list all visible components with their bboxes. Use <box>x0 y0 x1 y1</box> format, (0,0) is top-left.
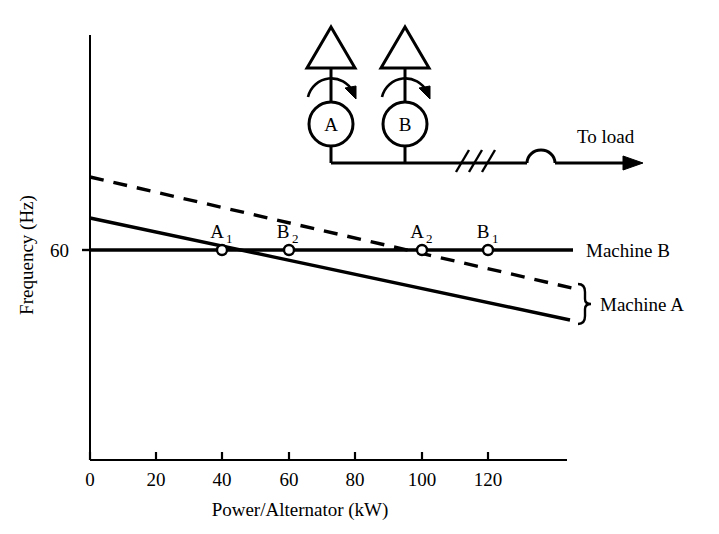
rotation-arrowhead-a <box>345 86 356 99</box>
x-ticks <box>90 452 488 460</box>
x-tick-label-100: 100 <box>408 469 437 490</box>
point-label-a2: A 2 <box>410 221 432 246</box>
marker-a2 <box>417 245 427 255</box>
x-tick-label-0: 0 <box>85 469 95 490</box>
x-tick-label-40: 40 <box>213 469 232 490</box>
schematic-diagram: A B <box>307 27 643 172</box>
point-label-a2-base: A <box>410 221 424 242</box>
x-tick-label-80: 80 <box>346 469 365 490</box>
point-label-a1-sub: 1 <box>226 231 233 246</box>
wire-hop-icon <box>527 150 555 163</box>
marker-b1 <box>483 245 493 255</box>
alternator-b-label: B <box>399 114 412 135</box>
point-label-b1-base: B <box>477 221 490 242</box>
triangle-icon-b <box>381 27 429 68</box>
figure-root: A B <box>0 0 719 534</box>
marker-b2 <box>284 245 294 255</box>
series-legend: Machine B Machine A <box>578 240 684 324</box>
legend-machine-a: Machine A <box>600 294 684 315</box>
to-load-label: To load <box>577 126 635 147</box>
point-label-b1: B 1 <box>477 221 499 246</box>
legend-machine-b: Machine B <box>586 240 670 261</box>
y-axis-title: Frequency (Hz) <box>16 195 38 315</box>
point-label-b1-sub: 1 <box>492 231 499 246</box>
x-tick-label-20: 20 <box>147 469 166 490</box>
operating-point-labels: A 1 B 2 A 2 B 1 <box>210 221 498 246</box>
point-label-a1-base: A <box>210 221 224 242</box>
alternator-a-label: A <box>324 114 338 135</box>
x-tick-label-120: 120 <box>474 469 503 490</box>
chart-axes: 60 Frequency (Hz) 0 20 40 60 80 100 120 <box>16 35 567 521</box>
x-tick-label-60: 60 <box>280 469 299 490</box>
point-label-b2-base: B <box>277 221 290 242</box>
x-axis-title: Power/Alternator (kW) <box>212 499 389 521</box>
point-label-a2-sub: 2 <box>426 231 433 246</box>
machine-a-brace <box>578 284 591 324</box>
point-label-b2: B 2 <box>277 221 299 246</box>
point-label-a1: A 1 <box>210 221 232 246</box>
rotation-arrowhead-b <box>419 86 430 99</box>
y-tick-label-60: 60 <box>50 240 69 261</box>
marker-a1 <box>217 245 227 255</box>
three-slash-break-icon <box>456 150 495 172</box>
chart-series <box>90 177 573 320</box>
point-label-b2-sub: 2 <box>292 231 299 246</box>
arrow-right-icon <box>623 156 643 170</box>
chart-canvas: A B <box>0 0 719 534</box>
triangle-icon-a <box>307 27 355 68</box>
